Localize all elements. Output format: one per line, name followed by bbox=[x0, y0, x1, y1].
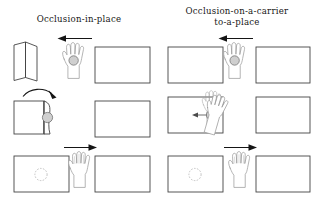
occlusion-figure: Occlusion-in-place Occlusion-on-a-carrie… bbox=[0, 0, 316, 197]
place-rectangle-icon bbox=[256, 47, 310, 83]
arrow-right-icon bbox=[64, 144, 97, 151]
place-rectangle-icon bbox=[256, 97, 310, 133]
carrier-rectangle-with-ghost-puck-icon bbox=[168, 156, 223, 192]
cell-left-row-2 bbox=[6, 87, 152, 139]
hand-holding-puck-icon bbox=[224, 43, 245, 79]
column-title-line-1: Occlusion-on-a-carrier bbox=[162, 6, 312, 17]
cell-right-row-2 bbox=[164, 87, 312, 143]
arrow-left-icon bbox=[58, 35, 93, 42]
place-rectangle-icon bbox=[256, 156, 310, 192]
carrier-rectangle-icon bbox=[168, 47, 223, 83]
folded-card-icon bbox=[14, 42, 37, 81]
cell-left-row-3 bbox=[6, 142, 152, 194]
source-rectangle-with-ghost-puck-icon bbox=[14, 156, 69, 192]
hand-empty-icon bbox=[69, 152, 90, 188]
arrow-left-icon bbox=[219, 35, 254, 42]
card-with-open-flap-icon bbox=[14, 101, 53, 134]
hand-holding-puck-icon bbox=[63, 43, 84, 79]
cell-right-row-1 bbox=[164, 33, 312, 85]
arrow-right-icon bbox=[224, 144, 257, 151]
column-title-line-2: to-a-place bbox=[162, 17, 312, 28]
column-title-occlusion-in-place: Occlusion-in-place bbox=[6, 14, 152, 25]
hand-empty-icon bbox=[229, 152, 250, 188]
arrow-curved-right-icon bbox=[23, 89, 57, 99]
cell-right-row-3 bbox=[164, 142, 312, 194]
cell-left-row-1 bbox=[6, 33, 152, 85]
place-rectangle-icon bbox=[95, 101, 150, 137]
place-rectangle-icon bbox=[95, 47, 150, 83]
column-title-occlusion-on-a-carrier: Occlusion-on-a-carrier to-a-place bbox=[162, 6, 312, 27]
place-rectangle-icon bbox=[95, 156, 150, 192]
